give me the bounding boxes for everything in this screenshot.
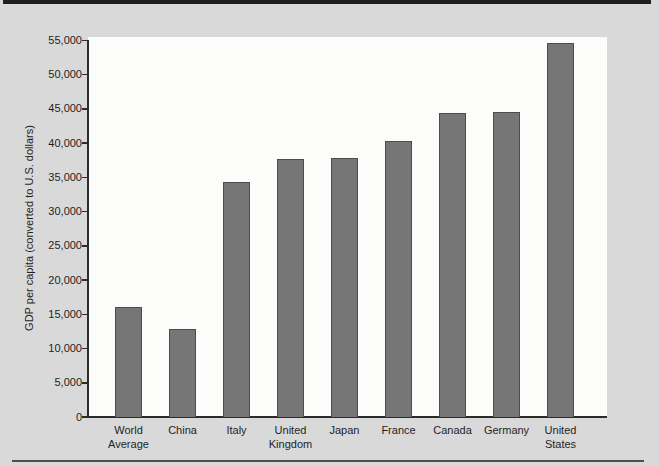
y-tick-label: 5,000 [36,376,82,389]
bar-united-states [547,43,574,417]
bar-canada [439,113,466,417]
y-tick-label: 35,000 [36,171,82,184]
y-tick-mark [82,314,87,316]
y-tick-mark [82,416,87,418]
y-tick-label: 50,000 [36,68,82,81]
figure-page: GDP per capita (converted to U.S. dollar… [0,0,659,466]
y-tick-label: 15,000 [36,308,82,321]
top-rule [3,0,651,4]
bar-world-average [115,307,142,417]
y-tick-label: 55,000 [36,34,82,47]
bar-united-kingdom [277,159,304,417]
bar-germany [493,112,520,417]
y-axis-line [87,40,89,417]
y-tick-label: 45,000 [36,102,82,115]
x-category-label: United States [519,423,603,451]
bar-france [385,141,412,417]
y-tick-mark [82,40,87,42]
y-tick-label: 10,000 [36,342,82,355]
y-tick-label: 20,000 [36,274,82,287]
y-tick-mark [82,245,87,247]
y-tick-mark [82,74,87,76]
y-tick-mark [82,177,87,179]
y-tick-mark [82,108,87,110]
y-tick-mark [82,142,87,144]
y-tick-label: 25,000 [36,239,82,252]
y-tick-label: 0 [36,411,82,424]
y-tick-mark [82,348,87,350]
bar-china [169,329,196,417]
y-tick-label: 30,000 [36,205,82,218]
bar-japan [331,158,358,417]
y-tick-label: 40,000 [36,137,82,150]
bar-italy [223,182,250,417]
y-tick-mark [82,211,87,213]
y-tick-mark [82,279,87,281]
bottom-rule [12,460,644,462]
y-tick-mark [82,382,87,384]
y-axis-title: GDP per capita (converted to U.S. dollar… [23,125,35,331]
